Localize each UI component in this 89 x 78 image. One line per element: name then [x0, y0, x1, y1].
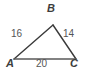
- vertex-label-c: C: [70, 58, 78, 69]
- side-length-label-ac: 20: [36, 59, 47, 69]
- vertex-label-b: B: [47, 3, 55, 14]
- geometry-figure: A B C 16 14 20: [0, 0, 89, 78]
- side-length-label-bc: 14: [63, 29, 74, 39]
- vertex-label-a: A: [6, 58, 14, 69]
- side-length-label-ab: 16: [11, 29, 22, 39]
